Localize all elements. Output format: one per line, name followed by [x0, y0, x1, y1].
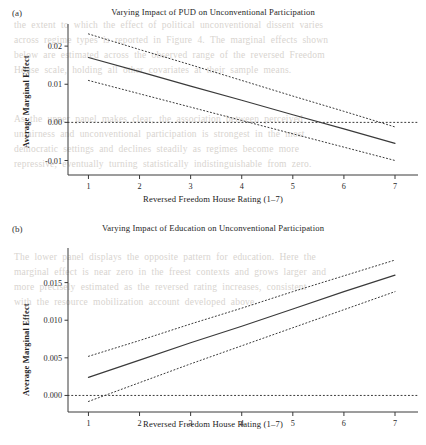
x-tick-label: 6 [342, 182, 346, 191]
panel-a-plot-area: 0.020.010.00-0.011234567 [0, 0, 426, 218]
x-tick-label: 1 [86, 182, 90, 191]
x-tick-label: 5 [291, 182, 295, 191]
x-tick-label: 3 [189, 182, 193, 191]
x-tick-label: 2 [137, 182, 141, 191]
y-tick-label: -0.01 [45, 157, 62, 166]
confidence-bound-line [88, 80, 395, 160]
y-tick-label: 0.01 [48, 80, 62, 89]
panel-b-x-axis-label: Reversed Freedom House Rating (1–7) [0, 419, 426, 429]
y-tick-label: 0.00 [48, 118, 62, 127]
y-tick-label: 0.000 [44, 391, 62, 400]
y-tick-label: 0.02 [48, 42, 62, 51]
chart-panel-a: (a) Varying Impact of PUD on Unconventio… [0, 0, 426, 218]
y-tick-label: 0.015 [44, 279, 62, 288]
panel-b-plot-area: 0.0150.0100.0050.0001234567 [0, 218, 426, 445]
panel-a-x-axis-label: Reversed Freedom House Rating (1–7) [0, 194, 426, 204]
confidence-bound-line [88, 34, 395, 127]
marginal-effect-line [88, 58, 395, 144]
y-tick-label: 0.005 [44, 354, 62, 363]
chart-panel-b: (b) Varying Impact of Education on Uncon… [0, 218, 426, 445]
marginal-effect-line [88, 275, 395, 377]
x-tick-label: 4 [240, 182, 244, 191]
y-tick-label: 0.010 [44, 316, 62, 325]
x-tick-label: 7 [393, 182, 397, 191]
